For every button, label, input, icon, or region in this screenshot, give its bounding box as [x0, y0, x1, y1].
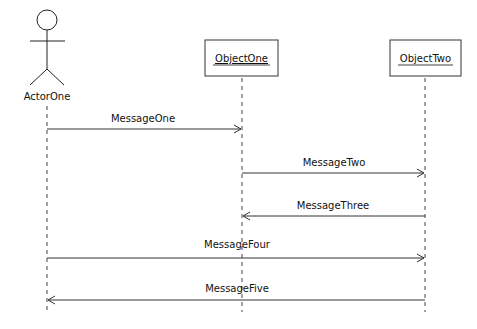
lifelines — [47, 78, 425, 312]
actor-label: ActorOne — [24, 91, 71, 102]
message-label: MessageOne — [111, 113, 175, 124]
actor-figure[interactable] — [30, 10, 65, 85]
object-label: ObjectTwo — [400, 53, 451, 64]
actor-left-leg — [30, 69, 47, 85]
message-label: MessageTwo — [303, 157, 366, 168]
message-3[interactable] — [243, 212, 425, 220]
actor-head-icon — [37, 10, 57, 30]
message-1[interactable] — [47, 125, 241, 133]
message-4[interactable] — [47, 254, 424, 262]
sequence-diagram: ActorOne ObjectOne ObjectTwo — [0, 0, 477, 329]
message-label: MessageFour — [204, 239, 271, 250]
message-5[interactable] — [48, 296, 425, 304]
message-label: MessageThree — [297, 200, 369, 211]
object-box-objecttwo[interactable]: ObjectTwo — [390, 40, 461, 76]
actor-right-leg — [47, 69, 64, 85]
message-2[interactable] — [242, 169, 424, 177]
object-box-objectone[interactable]: ObjectOne — [205, 40, 278, 76]
object-label: ObjectOne — [215, 53, 268, 64]
message-label: MessageFive — [205, 283, 269, 294]
